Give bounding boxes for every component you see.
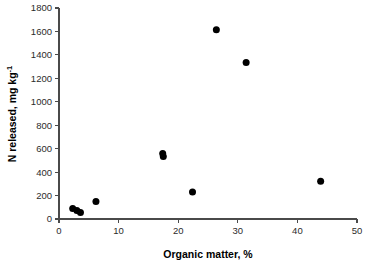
x-tick-label-40: 40 (292, 225, 303, 236)
x-tick-label-10: 10 (113, 225, 124, 236)
data-point (213, 26, 220, 33)
data-point (77, 209, 84, 216)
y-axis-tick-labels: 020040060080010001200140016001800 (31, 2, 52, 224)
y-tick-label-1800: 1800 (31, 2, 52, 13)
y-axis-ticks (55, 8, 59, 219)
y-tick-label-1200: 1200 (31, 73, 52, 84)
data-point (92, 198, 99, 205)
data-point (189, 189, 196, 196)
x-tick-label-50: 50 (352, 225, 363, 236)
y-axis-title-base: N released, mg kg (6, 72, 18, 162)
x-tick-label-30: 30 (233, 225, 244, 236)
x-axis-title: Organic matter, % (163, 248, 253, 260)
y-tick-label-600: 600 (36, 143, 52, 154)
x-axis-ticks (59, 219, 357, 223)
data-point (160, 153, 167, 160)
y-axis-title-exponent: -1 (5, 66, 14, 73)
y-tick-label-1000: 1000 (31, 96, 52, 107)
series-0 (69, 26, 324, 216)
y-tick-label-800: 800 (36, 120, 52, 131)
y-tick-label-0: 0 (47, 213, 52, 224)
y-tick-label-1400: 1400 (31, 49, 52, 60)
x-tick-label-0: 0 (56, 225, 61, 236)
y-axis-title: N released, mg kg-1 (5, 66, 19, 163)
y-tick-label-1600: 1600 (31, 26, 52, 37)
x-axis-tick-labels: 01020304050 (56, 225, 362, 236)
data-point (243, 59, 250, 66)
y-tick-label-400: 400 (36, 167, 52, 178)
x-axis: 01020304050 (56, 219, 362, 236)
scatter-chart-figure: 020040060080010001200140016001800 010203… (0, 0, 374, 266)
y-axis: 020040060080010001200140016001800 (31, 2, 59, 224)
y-tick-label-200: 200 (36, 190, 52, 201)
data-point (317, 178, 324, 185)
data-points-layer (69, 26, 324, 216)
x-tick-label-20: 20 (173, 225, 184, 236)
chart-canvas: 020040060080010001200140016001800 010203… (0, 0, 374, 266)
